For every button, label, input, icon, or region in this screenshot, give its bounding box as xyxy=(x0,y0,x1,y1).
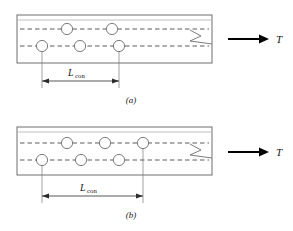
panel-b: L con T (b) xyxy=(17,127,283,220)
dimension-label-symbol-a: L xyxy=(67,67,74,78)
figure-canvas: L con T (a) xyxy=(0,0,293,231)
bolt-hole xyxy=(61,137,72,148)
dimension-arrowhead-left-b xyxy=(42,194,49,199)
break-symbol-a xyxy=(190,30,212,44)
bolt-hole xyxy=(36,154,47,165)
panel-caption-a: (a) xyxy=(126,95,137,105)
bolt-hole xyxy=(61,23,72,34)
panel-caption-b: (b) xyxy=(126,210,137,220)
plate-outline-a xyxy=(17,15,212,63)
force-label-b: T xyxy=(276,146,283,158)
force-label-a: T xyxy=(276,33,283,45)
dimension-label-symbol-b: L xyxy=(79,182,86,193)
break-symbol-b xyxy=(190,144,212,158)
dimension-label-subscript-a: con xyxy=(75,72,85,79)
dimension-label-subscript-b: con xyxy=(87,187,97,194)
panel-a: L con T (a) xyxy=(17,15,283,105)
bolt-hole xyxy=(74,40,85,51)
bolt-hole xyxy=(99,137,110,148)
force-arrowhead-a xyxy=(259,35,269,44)
dimension-arrowhead-left-a xyxy=(42,79,49,84)
bolt-hole xyxy=(113,154,124,165)
bolt-hole xyxy=(36,40,47,51)
bolt-hole xyxy=(106,23,117,34)
dimension-arrowhead-right-a xyxy=(112,79,119,84)
dimension-arrowhead-right-b xyxy=(136,194,143,199)
technical-figure: L con T (a) xyxy=(0,0,293,231)
bolt-hole xyxy=(137,137,148,148)
bolt-hole xyxy=(113,40,124,51)
force-arrowhead-b xyxy=(259,148,269,157)
plate-outline-b xyxy=(17,127,212,175)
bolt-hole xyxy=(75,154,86,165)
